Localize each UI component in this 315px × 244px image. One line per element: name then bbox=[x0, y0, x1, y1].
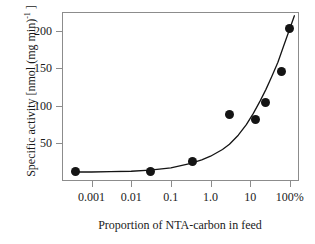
x-axis-title: Proportion of NTA-carbon in feed bbox=[55, 218, 305, 233]
y-tick-label: 200 bbox=[16, 25, 52, 37]
fit-curve bbox=[62, 12, 299, 181]
y-tick-label: 100 bbox=[16, 100, 52, 112]
x-tick-mark bbox=[171, 181, 172, 187]
y-tick-label: 150 bbox=[16, 62, 52, 74]
x-tick-label: 1.0 bbox=[189, 191, 233, 203]
y-axis-title-exponent: -1 bbox=[23, 12, 32, 19]
data-point bbox=[188, 157, 197, 166]
x-tick-label: 10 bbox=[228, 191, 272, 203]
x-tick-label: 0.1 bbox=[149, 191, 193, 203]
data-layer bbox=[62, 12, 299, 181]
x-tick-mark bbox=[211, 181, 212, 187]
y-tick-label: 50 bbox=[16, 137, 52, 149]
y-axis-title-main: Specific activity [nmol (mg min) bbox=[24, 19, 38, 177]
y-axis-title-tail: ] bbox=[24, 5, 38, 12]
data-point bbox=[71, 167, 80, 176]
x-tick-mark bbox=[290, 181, 291, 187]
x-tick-label: 100% bbox=[268, 191, 312, 203]
x-tick-mark bbox=[131, 181, 132, 187]
x-tick-mark bbox=[92, 181, 93, 187]
x-tick-label: 0.001 bbox=[70, 191, 114, 203]
x-tick-label: 0.01 bbox=[109, 191, 153, 203]
data-point bbox=[277, 67, 286, 76]
chart-figure: Specific activity [nmol (mg min)-1 ] 501… bbox=[0, 0, 315, 244]
x-tick-mark bbox=[250, 181, 251, 187]
